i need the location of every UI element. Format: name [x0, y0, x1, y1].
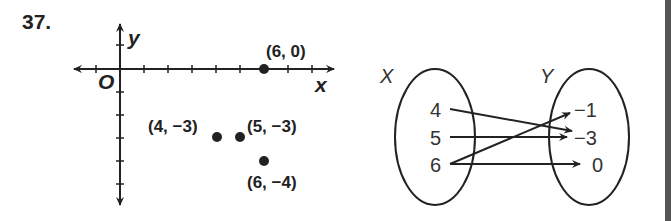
figure: y x O (6, 0) (4, −3) (5, −3) (6, −4) X Y…	[0, 0, 671, 221]
domain-label: X	[379, 65, 394, 87]
domain-value: 5	[430, 127, 441, 149]
page-edge	[665, 0, 671, 221]
point-4-neg3	[212, 132, 222, 142]
point-label: (6, −4)	[247, 173, 297, 192]
point-6-0	[259, 64, 269, 74]
domain-value: 4	[430, 99, 441, 121]
mapping-diagram: X Y 4 5 6 −1 −3 0	[379, 65, 629, 205]
range-value: 0	[592, 154, 603, 176]
range-value: −1	[574, 99, 597, 121]
point-label: (5, −3)	[247, 117, 297, 136]
range-value: −3	[574, 127, 597, 149]
point-6-neg4	[259, 156, 269, 166]
x-axis-label: x	[314, 73, 328, 96]
coordinate-plane: y x O (6, 0) (4, −3) (5, −3) (6, −4)	[74, 24, 334, 205]
y-axis-label: y	[127, 26, 141, 49]
point-5-neg3	[235, 132, 245, 142]
point-label: (4, −3)	[148, 117, 198, 136]
origin-label: O	[98, 70, 114, 93]
range-label: Y	[540, 65, 555, 87]
point-label: (6, 0)	[266, 42, 306, 61]
domain-value: 6	[430, 154, 441, 176]
